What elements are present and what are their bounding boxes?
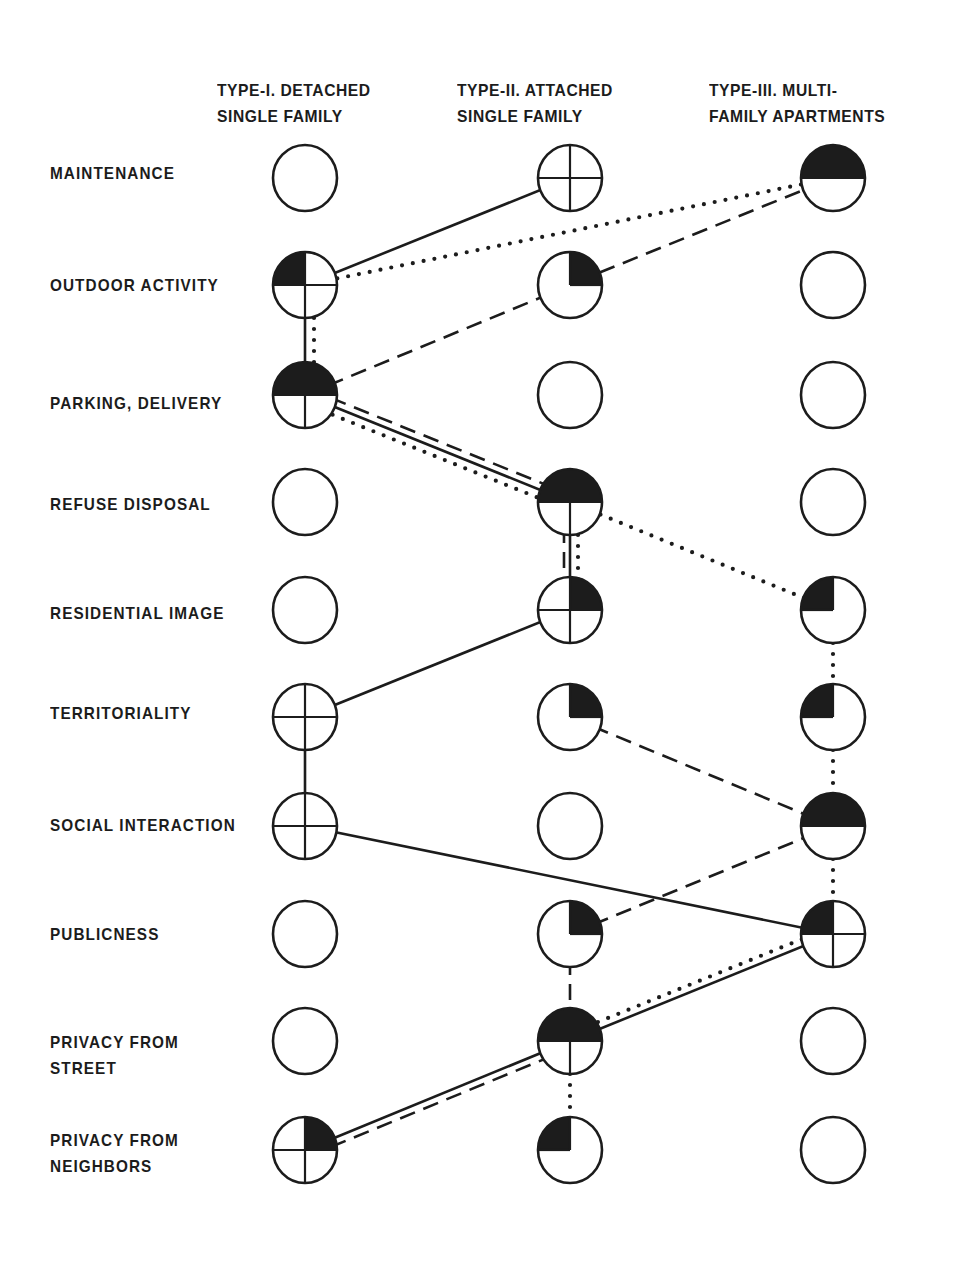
rating-circles	[273, 145, 865, 1183]
empty-circle-icon	[538, 362, 602, 428]
cross-circle-icon	[538, 145, 602, 211]
connector-dashed	[570, 826, 833, 934]
cross-tr-circle-icon	[273, 1117, 337, 1183]
quarter-tl-circle-icon	[801, 684, 865, 750]
half-top-circle-icon	[801, 145, 865, 211]
connector-solid	[305, 395, 570, 502]
connector-solid	[305, 610, 570, 717]
cross-tl-circle-icon	[801, 901, 865, 967]
connector-dotted	[302, 402, 567, 509]
connector-solid	[305, 1041, 570, 1150]
cross-circle-icon	[273, 793, 337, 859]
empty-circle-icon	[801, 252, 865, 318]
quarter-tl-circle-icon	[538, 1117, 602, 1183]
empty-circle-icon	[801, 1008, 865, 1074]
empty-circle-icon	[801, 362, 865, 428]
connector-dashed	[308, 1047, 573, 1156]
empty-circle-icon	[801, 1117, 865, 1183]
empty-circle-icon	[273, 1008, 337, 1074]
cross-circle-icon	[273, 684, 337, 750]
quarter-tr-circle-icon	[538, 252, 602, 318]
relationship-diagram	[0, 0, 965, 1262]
half-top-circle-icon	[801, 793, 865, 859]
half-top-split-circle-icon	[538, 469, 602, 535]
cross-tl-circle-icon	[273, 252, 337, 318]
connector-dotted	[570, 502, 833, 610]
empty-circle-icon	[801, 469, 865, 535]
connector-solid	[305, 178, 570, 285]
quarter-tr-circle-icon	[538, 901, 602, 967]
empty-circle-icon	[273, 469, 337, 535]
connector-solid	[570, 934, 833, 1041]
half-top-split-circle-icon	[273, 362, 337, 428]
empty-circle-icon	[538, 793, 602, 859]
quarter-tr-circle-icon	[538, 684, 602, 750]
connector-dotted	[567, 928, 830, 1035]
empty-circle-icon	[273, 901, 337, 967]
empty-circle-icon	[273, 577, 337, 643]
empty-circle-icon	[273, 145, 337, 211]
cross-tr-circle-icon	[538, 577, 602, 643]
quarter-tl-circle-icon	[801, 577, 865, 643]
half-top-split-circle-icon	[538, 1008, 602, 1074]
connector-dashed	[570, 717, 833, 826]
connector-dashed	[308, 389, 573, 496]
